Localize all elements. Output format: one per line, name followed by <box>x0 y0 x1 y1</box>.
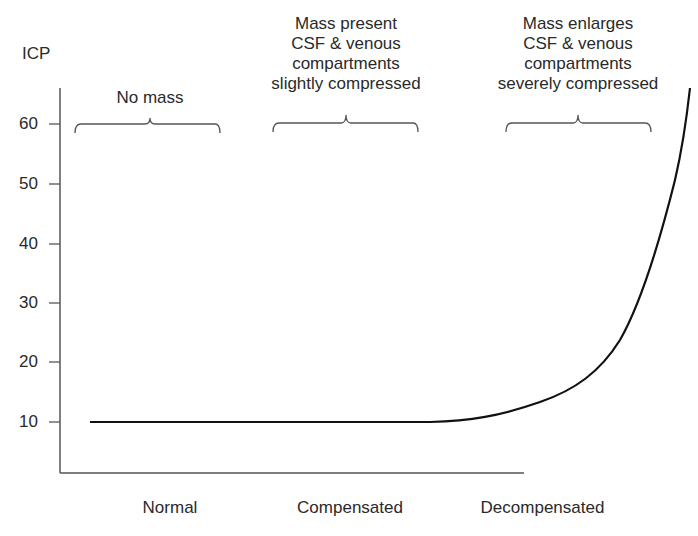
x-category-normal: Normal <box>120 498 220 518</box>
annotation-normal: No mass <box>90 88 210 108</box>
brace-compensated-icon <box>273 115 418 132</box>
annotation-decompensated: Mass enlarges CSF & venous compartments … <box>486 14 670 94</box>
y-tick-label: 20 <box>0 352 38 372</box>
y-tick-label: 40 <box>0 234 38 254</box>
brace-normal-icon <box>75 118 220 133</box>
y-tick-label: 60 <box>0 114 38 134</box>
icp-curve <box>90 88 690 422</box>
y-tick-label: 50 <box>0 174 38 194</box>
annotation-compensated: Mass present CSF & venous compartments s… <box>256 14 436 94</box>
brace-decompensated-icon <box>506 115 651 132</box>
x-category-compensated: Compensated <box>285 498 415 518</box>
y-ticks <box>49 124 60 422</box>
y-tick-label: 10 <box>0 412 38 432</box>
x-category-decompensated: Decompensated <box>460 498 625 518</box>
y-tick-label: 30 <box>0 293 38 313</box>
y-axis-label: ICP <box>22 44 50 63</box>
